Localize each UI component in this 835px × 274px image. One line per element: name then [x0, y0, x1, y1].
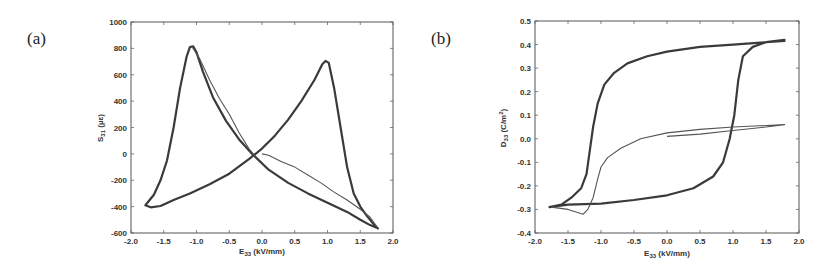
y-tick-label: -0.4 [517, 229, 531, 238]
x-tick-label: -1.5 [561, 237, 575, 246]
x-tick-label: 0.0 [661, 237, 673, 246]
y-tick-label: 200 [114, 124, 128, 133]
y-tick-label: 600 [114, 71, 128, 80]
x-tick-label: 1.0 [727, 237, 739, 246]
data-series-line [145, 46, 378, 228]
x-tick-label: -1.0 [594, 237, 608, 246]
ticks-b: -2.0-1.5-1.0-0.50.00.51.01.52.0-0.4-0.3-… [517, 17, 805, 246]
y-axis-title-a: S31 (µε) [96, 114, 106, 142]
x-tick-label: 1.5 [355, 237, 367, 246]
y-tick-label: -0.2 [517, 182, 531, 191]
y-tick-label: 1000 [109, 18, 127, 27]
data-series-line [550, 40, 785, 207]
y-axis-title-b: D33 (C/m2) [498, 108, 509, 147]
y-tick-label: -600 [111, 229, 128, 238]
x-tick-label: -1.0 [190, 237, 204, 246]
y-tick-label: -0.1 [517, 158, 531, 167]
panel-label-a: (a) [27, 29, 46, 48]
x-axis-title-a: E33 (kV/mm) [239, 247, 285, 257]
x-tick-label: -2.0 [528, 237, 542, 246]
y-tick-label: 0.0 [520, 135, 532, 144]
x-tick-label: 1.5 [760, 237, 772, 246]
y-tick-label: 400 [114, 97, 128, 106]
y-tick-label: -0.3 [517, 205, 531, 214]
y-tick-label: 0.4 [520, 41, 532, 50]
y-tick-label: 0.2 [520, 88, 532, 97]
chart-b: (b) -2.0-1.5-1.0-0.50.00.51.01.52.0-0.4-… [431, 17, 805, 259]
x-tick-label: 1.0 [322, 237, 334, 246]
y-tick-label: 0 [123, 150, 128, 159]
plot-frame-b [535, 21, 799, 233]
y-tick-label: 800 [114, 44, 128, 53]
curves-a [145, 46, 378, 229]
x-tick-label: 0.5 [694, 237, 706, 246]
x-axis-title-b: E33 (kV/mm) [644, 249, 690, 259]
y-tick-label: -200 [111, 176, 128, 185]
chart-a: (a) -2.0-1.5-1.0-0.50.00.51.01.52.0-600-… [27, 18, 399, 257]
panel-label-b: (b) [431, 29, 451, 48]
x-tick-label: -0.5 [627, 237, 641, 246]
curves-b [550, 40, 785, 214]
x-tick-label: -2.0 [124, 237, 138, 246]
y-tick-label: -400 [111, 203, 128, 212]
figure: (a) -2.0-1.5-1.0-0.50.00.51.01.52.0-600-… [0, 0, 835, 274]
x-tick-label: -0.5 [222, 237, 236, 246]
y-tick-label: 0.5 [520, 17, 532, 26]
x-tick-label: -1.5 [157, 237, 171, 246]
data-series-line [191, 46, 255, 157]
x-tick-label: 2.0 [387, 237, 399, 246]
x-tick-label: 0.0 [256, 237, 268, 246]
y-tick-label: 0.1 [520, 111, 532, 120]
ticks-a: -2.0-1.5-1.0-0.50.00.51.01.52.0-600-400-… [109, 18, 399, 246]
x-tick-label: 2.0 [793, 237, 805, 246]
x-tick-label: 0.5 [289, 237, 301, 246]
data-series-line [262, 154, 377, 227]
y-tick-label: 0.3 [520, 64, 532, 73]
